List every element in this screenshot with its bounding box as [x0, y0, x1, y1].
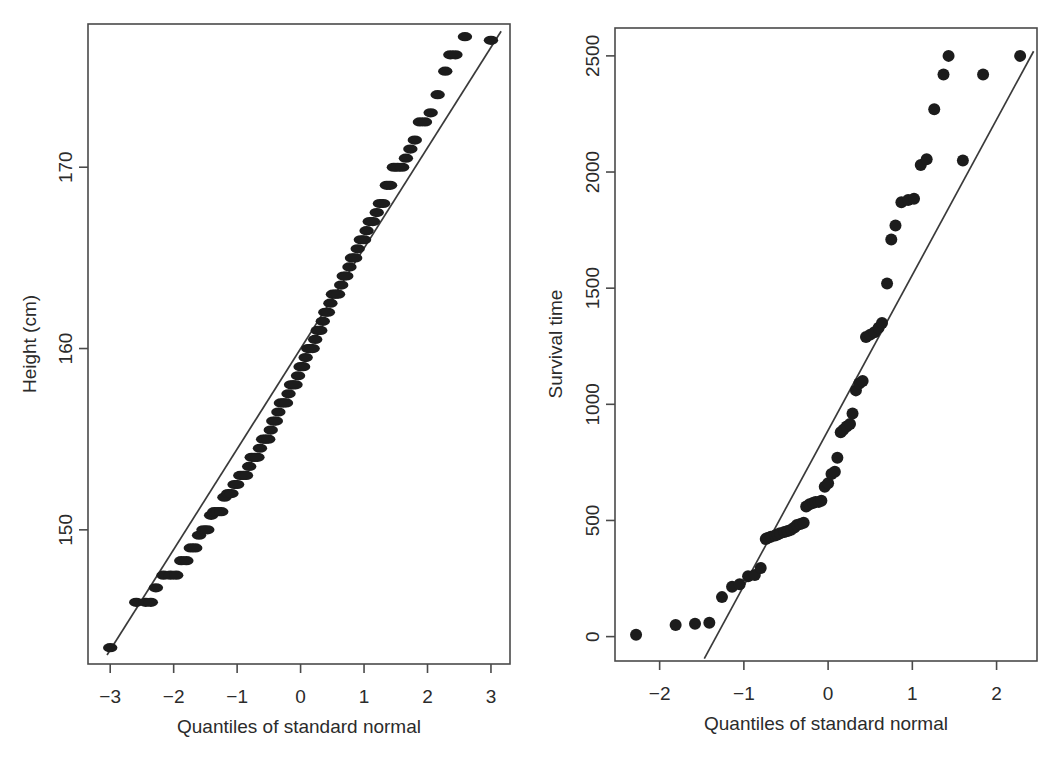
axis-ticks: −2−101205001000150020002500 — [582, 35, 1002, 704]
data-point — [350, 244, 364, 253]
data-point — [214, 507, 228, 516]
data-point — [798, 517, 810, 529]
data-point — [418, 117, 432, 126]
y-tick-label: 1500 — [582, 267, 603, 309]
data-point — [370, 208, 384, 217]
data-point — [376, 199, 390, 208]
data-point — [847, 408, 859, 420]
y-axis-title: Survival time — [545, 290, 566, 399]
data-point — [271, 407, 285, 416]
data-point — [321, 308, 335, 317]
qq-plot-figure: −3−2−10123150160170 Quantiles of standar… — [0, 0, 1053, 768]
data-point — [366, 217, 380, 226]
x-tick-label: −1 — [226, 686, 248, 707]
data-point — [179, 556, 193, 565]
data-point — [943, 50, 955, 62]
data-point — [977, 68, 989, 80]
data-point — [261, 435, 275, 444]
data-point — [889, 219, 901, 231]
x-axis-title: Quantiles of standard normal — [704, 713, 948, 734]
data-point — [630, 629, 642, 641]
data-point — [230, 480, 244, 489]
data-point — [423, 108, 437, 117]
y-axis-title: Height (cm) — [19, 295, 40, 393]
data-point — [200, 525, 214, 534]
data-point — [448, 50, 462, 59]
data-point — [103, 643, 117, 652]
data-point — [831, 452, 843, 464]
x-tick-label: −2 — [649, 683, 671, 704]
data-point — [239, 471, 253, 480]
x-tick-label: 1 — [907, 683, 918, 704]
data-point — [928, 103, 940, 115]
data-point — [281, 389, 295, 398]
data-point — [876, 317, 888, 329]
data-point — [670, 619, 682, 631]
data-point — [957, 154, 969, 166]
x-axis-title: Quantiles of standard normal — [177, 716, 421, 737]
data-point — [253, 444, 267, 453]
data-point — [815, 495, 827, 507]
x-tick-label: 0 — [823, 683, 834, 704]
data-point — [1014, 50, 1026, 62]
y-tick-label: 2000 — [582, 151, 603, 193]
data-point — [331, 290, 345, 299]
data-points-group — [103, 32, 498, 652]
x-tick-label: 2 — [422, 686, 433, 707]
data-point — [348, 253, 362, 262]
data-point — [844, 418, 856, 430]
data-point — [169, 571, 183, 580]
y-tick-label: 0 — [582, 631, 603, 642]
data-point — [395, 163, 409, 172]
data-point — [342, 262, 356, 271]
data-point — [881, 278, 893, 290]
data-point — [383, 181, 397, 190]
y-tick-label: 170 — [55, 151, 76, 183]
data-point — [316, 317, 330, 326]
data-point — [458, 32, 472, 41]
x-tick-label: 1 — [359, 686, 370, 707]
data-point — [298, 353, 312, 362]
data-point — [305, 344, 319, 353]
data-point — [908, 193, 920, 205]
survival-qq-svg: −2−101205001000150020002500 Quantiles of… — [530, 0, 1053, 768]
data-point — [755, 562, 767, 574]
y-tick-label: 500 — [582, 505, 603, 537]
data-point — [149, 583, 163, 592]
data-point — [144, 598, 158, 607]
data-point — [264, 426, 278, 435]
data-point — [403, 144, 417, 153]
data-point — [288, 380, 302, 389]
data-point — [408, 135, 422, 144]
reference-line-group — [107, 31, 501, 655]
data-point — [359, 226, 373, 235]
x-tick-label: −1 — [733, 683, 755, 704]
data-point — [921, 153, 933, 165]
survival-qq-panel: −2−101205001000150020002500 Quantiles of… — [530, 0, 1053, 768]
data-points-group — [630, 50, 1026, 641]
y-tick-label: 2500 — [582, 35, 603, 77]
data-point — [269, 416, 283, 425]
y-tick-label: 1000 — [582, 383, 603, 425]
data-point — [250, 453, 264, 462]
reference-line-group — [704, 51, 1033, 658]
data-point — [279, 398, 293, 407]
data-point — [188, 543, 202, 552]
height-qq-panel: −3−2−10123150160170 Quantiles of standar… — [0, 0, 530, 768]
data-point — [357, 235, 371, 244]
x-tick-label: −3 — [99, 686, 121, 707]
data-point — [242, 462, 256, 471]
data-point — [689, 618, 701, 630]
x-tick-label: 3 — [486, 686, 497, 707]
data-point — [829, 466, 841, 478]
data-point — [296, 362, 310, 371]
data-point — [484, 36, 498, 45]
y-tick-label: 150 — [55, 514, 76, 546]
data-point — [430, 90, 444, 99]
data-point — [339, 271, 353, 280]
x-tick-label: −2 — [163, 686, 185, 707]
data-point — [334, 280, 348, 289]
data-point — [308, 335, 322, 344]
data-point — [291, 371, 305, 380]
data-point — [703, 617, 715, 629]
